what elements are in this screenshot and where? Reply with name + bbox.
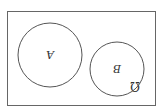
venn-diagram: Ω B A bbox=[0, 0, 163, 112]
set-a-label: A bbox=[46, 48, 55, 61]
set-b-label: B bbox=[113, 62, 122, 75]
